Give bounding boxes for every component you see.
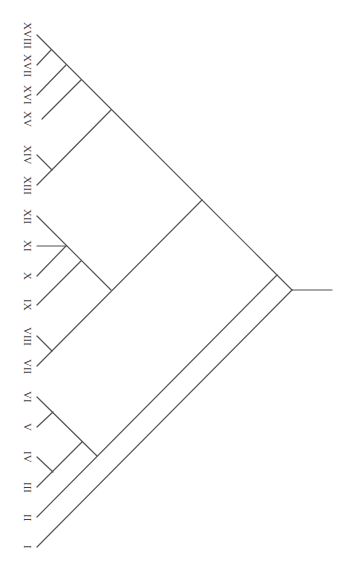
branch-edge [37,50,51,65]
branch-edge [37,290,292,547]
branch-edge [37,110,111,185]
leaf-label: XVII [22,54,33,77]
branch-edge [37,275,277,517]
branch-edge [37,200,202,366]
leaf-label: VI [22,391,33,403]
leaf-label: XII [22,209,33,224]
leaf-label: III [22,482,33,493]
branch-edge [37,336,52,351]
leaf-label: X [22,272,33,280]
branch-edge [37,65,66,95]
branch-edge [42,80,81,119]
leaf-label: XIV [22,145,33,165]
leaf-label: XV [22,111,33,127]
branch-edge [37,457,53,472]
branch-edge [37,155,52,170]
leaf-label: V [22,423,33,431]
leaf-label: IX [22,299,33,311]
leaf-label: II [22,514,33,521]
branch-edge [37,442,82,487]
leaf-label: VII [22,359,33,374]
leaf-label: I [22,545,33,549]
leaf-label: XVIII [22,22,33,49]
leaf-label: XVI [22,85,33,105]
leaf-label: IV [22,451,33,463]
branch-edge [37,261,81,305]
branch-edge [37,397,97,456]
leaf-label: XI [22,240,33,252]
leaf-label: XIII [22,176,33,195]
branch-edge [37,35,292,290]
cladogram-canvas [0,0,348,580]
leaf-label: VIII [22,327,33,346]
branch-edge [37,246,66,276]
branch-edge [37,216,111,290]
branch-edge [37,412,53,427]
